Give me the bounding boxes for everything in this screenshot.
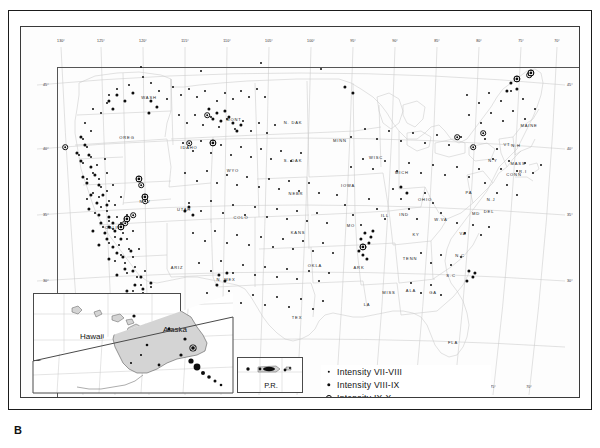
tick-label: 125° [97,39,105,43]
map-frame: 130° 125° 120° 115° 110° 105° 100° 95° 9… [20,26,580,398]
epicenter-symbol [276,208,278,210]
epicenter-symbol [500,100,502,102]
epicenter-symbol [256,88,258,90]
epicenter-symbol [240,90,242,92]
epicenter-symbol [86,146,88,148]
epicenter-symbol [258,186,260,188]
epicenter-symbol [532,172,534,174]
state-label: DEL [484,209,495,214]
state-label: GA [429,290,437,295]
epicenter-symbol [396,170,398,172]
legend-label: Intensity VIII-IX [337,380,400,390]
epicenter-symbol [480,122,482,124]
epicenter-symbol [470,144,476,150]
epicenter-symbol [332,252,334,254]
epicenter-symbol [466,94,468,96]
epicenter-symbol [326,222,328,224]
epicenter-symbol [224,92,226,94]
epicenter-symbol [270,158,272,160]
epicenter-symbol [188,202,190,204]
epicenter-symbol [276,276,278,278]
epicenter-symbol [488,92,490,94]
epicenter-symbol [288,180,290,182]
epicenter-symbol [144,270,146,272]
epicenter-symbol [540,164,542,166]
epicenter-symbol [202,124,204,126]
epicenter-symbol [150,82,152,84]
epicenter-symbol [460,136,462,138]
epicenter-symbol [98,196,100,198]
epicenter-symbol [440,294,442,296]
state-label: FLA [448,340,458,345]
epicenter-symbol [140,284,142,286]
epicenter-symbol [266,216,268,218]
epicenter-symbol [196,180,198,182]
epicenter-symbol [478,168,480,170]
epicenter-symbol [100,206,102,208]
state-label: W.VA [434,217,447,222]
epicenter-symbol [210,152,212,154]
tick-label: 105° [265,39,273,43]
epicenter-symbol [242,120,244,122]
epicenter-symbol [308,182,310,184]
state-label: ILL [381,213,389,218]
epicenter-symbol [328,272,330,274]
state-label: OHIO [418,197,432,202]
intensity-viii-ix-icon [321,378,337,391]
epicenter-symbol [138,248,140,250]
epicenter-symbol [296,210,298,212]
legend-label: Intensity IX-X [337,393,392,399]
epicenter-symbol [90,130,92,132]
epicenter-symbol [308,270,310,272]
epicenter-symbol [440,254,442,256]
epicenter-symbol [440,212,442,214]
epicenter-symbol [222,212,224,214]
epicenter-symbol [420,252,422,254]
epicenter-symbol [408,208,410,210]
epicenter-symbol [126,238,128,240]
epicenter-symbol [508,160,510,162]
state-label: N. DAK [284,120,303,125]
legend-item: Intensity VII-VIII [321,365,491,378]
epicenter-symbol [106,172,108,174]
tick-label: 85° [434,39,440,43]
epicenter-symbol [496,148,498,150]
epicenter-symbol [140,66,142,68]
epicenter-symbol [232,98,234,100]
epicenter-symbol [194,114,196,116]
epicenter-symbol [242,264,244,266]
epicenter-symbol [322,300,324,302]
tick-label: 95° [350,39,356,43]
epicenter-symbol [350,166,352,168]
epicenter-symbol [182,142,184,144]
epicenter-symbol [200,140,202,142]
epicenter-symbol [216,100,218,102]
epicenter-symbol [516,194,518,196]
tick-label: 115° [181,39,189,43]
epicenter-symbol [184,172,186,174]
epicenter-symbol [478,102,480,104]
pr-label: P.R. [264,381,278,390]
epicenter-symbol [130,212,136,218]
epicenter-symbol [120,196,122,198]
epicenter-symbol [468,114,470,116]
epicenter-symbol [454,134,460,140]
epicenter-symbol [188,88,190,90]
state-label: WYO [227,168,239,173]
epicenter-symbol [100,112,102,114]
epicenter-symbol [484,138,486,140]
intensity-ix-x-icon [321,391,337,398]
state-label: COLO [233,215,248,220]
state-label: MINN [333,138,347,143]
epicenter-symbol [424,192,426,194]
epicenter-symbol [322,242,324,244]
epicenter-symbol [126,272,128,274]
tick-label: 90° [392,39,398,43]
epicenter-symbol [456,222,458,224]
epicenter-symbol [196,96,198,98]
epicenter-symbol [248,96,250,98]
state-label: ARIZ [171,265,184,270]
tick-label: 75° [518,39,524,43]
epicenter-symbol [468,176,470,178]
epicenter-symbol [226,242,228,244]
